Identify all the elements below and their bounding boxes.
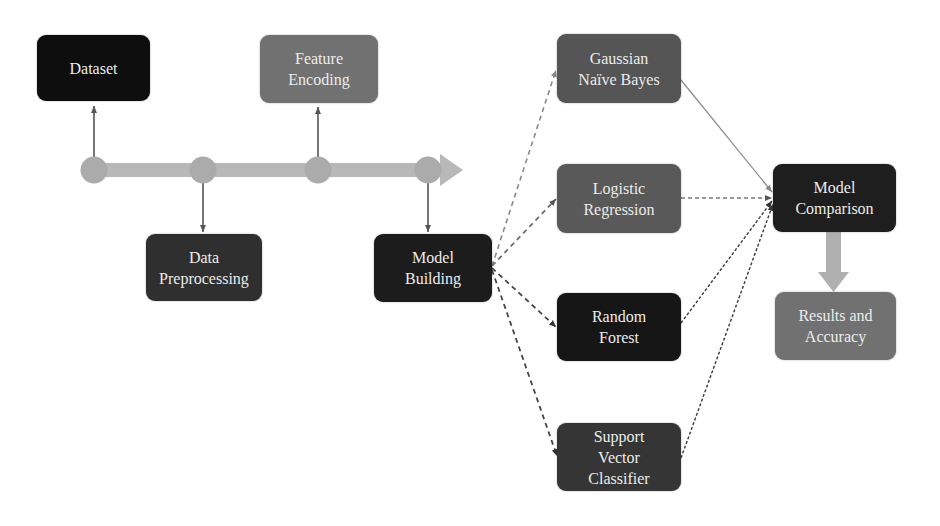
ml-pipeline-diagram: Dataset Feature Encoding Data Preprocess…: [0, 0, 940, 526]
node-label: Random: [592, 306, 646, 327]
node-label: Dataset: [70, 58, 118, 79]
node-label: Model: [412, 247, 454, 268]
edge-building-gnb: [492, 70, 556, 266]
node-label: Feature: [295, 48, 343, 69]
timeline-node-3: [305, 157, 332, 184]
node-label: Vector: [598, 447, 640, 468]
node-label: Naïve Bayes: [578, 69, 659, 90]
node-feature-encoding: Feature Encoding: [260, 35, 378, 103]
node-label: Model: [814, 177, 856, 198]
node-results-accuracy: Results and Accuracy: [775, 292, 896, 360]
edge-gnb-comparison: [681, 80, 772, 192]
node-random-forest: Random Forest: [557, 293, 681, 361]
node-data-preprocessing: Data Preprocessing: [146, 234, 262, 301]
node-label: Forest: [599, 327, 639, 348]
edge-building-lr: [492, 199, 556, 266]
timeline-node-4: [415, 157, 442, 184]
node-label: Building: [405, 268, 461, 289]
edge-building-svc: [492, 270, 557, 456]
node-label: Accuracy: [805, 326, 866, 347]
timeline-node-1: [81, 157, 108, 184]
node-support-vector-classifier: Support Vector Classifier: [557, 423, 681, 491]
node-label: Logistic: [593, 178, 645, 199]
node-model-comparison: Model Comparison: [773, 164, 896, 232]
timeline-node-2: [190, 157, 217, 184]
node-label: Regression: [583, 199, 654, 220]
block-arrow-comparison-results: [818, 232, 849, 292]
node-label: Support: [594, 426, 645, 447]
node-label: Gaussian: [590, 48, 649, 69]
timeline-arrow: [84, 154, 463, 186]
node-logistic-regression: Logistic Regression: [557, 164, 681, 233]
node-label: Encoding: [288, 69, 349, 90]
edge-rf-comparison: [681, 201, 772, 323]
node-label: Data: [189, 247, 219, 268]
node-label: Results and: [798, 305, 872, 326]
edge-svc-comparison: [681, 204, 773, 458]
node-label: Preprocessing: [159, 268, 249, 289]
node-gaussian-naive-bayes: Gaussian Naïve Bayes: [557, 34, 681, 103]
node-dataset: Dataset: [37, 35, 150, 101]
node-model-building: Model Building: [374, 234, 492, 302]
node-label: Classifier: [588, 468, 649, 489]
node-label: Comparison: [795, 198, 873, 219]
